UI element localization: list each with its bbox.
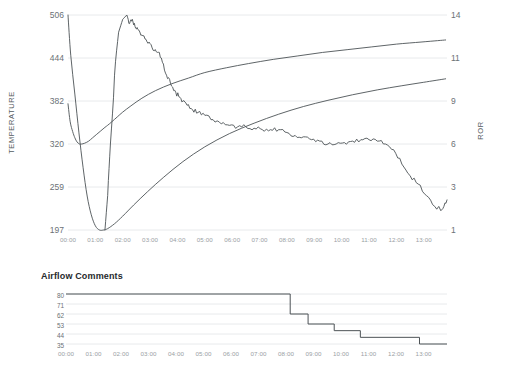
roast-profile-page: TEMPERATURE ROR 506 444 382 320 259 197 … — [0, 0, 513, 379]
y-tick-right-5: 1 — [451, 226, 483, 235]
temperature-ror-chart: TEMPERATURE ROR 506 444 382 320 259 197 … — [0, 0, 513, 258]
y-tick-left-3: 320 — [32, 140, 64, 149]
main-x-tick-13: 13:00 — [408, 236, 440, 243]
y-tick-left-2: 382 — [32, 97, 64, 106]
y-tick-left-1: 444 — [32, 54, 64, 63]
airflow-y-tick-0: 80 — [38, 292, 64, 299]
airflow-y-tick-4: 44 — [38, 332, 64, 339]
airflow-x-tick-13: 13:00 — [408, 350, 440, 357]
y-tick-right-4: 3 — [451, 183, 483, 192]
y-axis-left-title: TEMPERATURE — [7, 91, 16, 155]
airflow-step-curve — [66, 294, 447, 344]
airflow-y-tick-5: 35 — [38, 342, 64, 349]
airflow-y-tick-3: 53 — [38, 322, 64, 329]
main-plot-canvas — [0, 0, 513, 258]
y-tick-left-0: 506 — [32, 11, 64, 20]
airflow-chart: Airflow Comments 80 71 62 53 44 35 00:00… — [0, 258, 513, 379]
airflow-y-tick-2: 62 — [38, 312, 64, 319]
y-tick-right-3: 6 — [451, 140, 483, 149]
y-tick-right-0: 14 — [451, 11, 483, 20]
y-tick-right-1: 11 — [451, 54, 483, 63]
y-tick-left-5: 197 — [32, 226, 64, 235]
y-tick-left-4: 259 — [32, 183, 64, 192]
y-tick-right-2: 9 — [451, 97, 483, 106]
airflow-y-tick-1: 71 — [38, 302, 64, 309]
airflow-chart-title: Airflow Comments — [41, 271, 123, 281]
rate-of-rise-curve — [105, 15, 447, 230]
environmental-temperature-curve — [68, 15, 446, 230]
